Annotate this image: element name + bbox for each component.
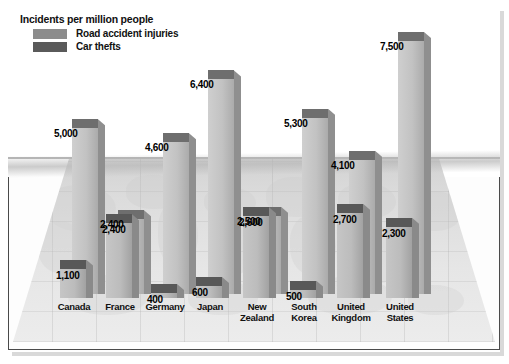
value-label-theft: 2,400 — [102, 224, 126, 235]
frame-shadow-bottom — [12, 352, 504, 356]
bar-side-face — [412, 218, 419, 298]
bar-top-face — [151, 284, 177, 293]
bar-side-face — [281, 207, 288, 294]
legend-item-theft: Car thefts — [20, 41, 178, 52]
value-label-road: 7,500 — [380, 41, 404, 52]
value-label-theft: 2,300 — [382, 228, 406, 239]
value-label-theft: 600 — [192, 287, 208, 298]
bar-top-face — [386, 218, 412, 227]
bar-side-face — [363, 204, 370, 298]
bar-top-face — [163, 133, 189, 142]
bar-side-face — [189, 133, 196, 294]
bar-road-accident-injuries — [208, 70, 234, 294]
bar-side-face — [98, 119, 105, 294]
legend: Incidents per million people Road accide… — [20, 13, 178, 52]
bar-side-face — [234, 70, 241, 294]
bar-top-face — [60, 260, 86, 269]
bar-top-face — [398, 32, 424, 41]
bar-front-face — [163, 133, 189, 294]
bar-front-face — [208, 70, 234, 294]
legend-swatch-theft — [33, 42, 67, 52]
bar-top-face — [208, 70, 234, 79]
value-label-road: 4,600 — [145, 142, 169, 153]
chart-container: 5,0001,1002,4002,4004,6004006,4006002,50… — [0, 0, 509, 364]
value-label-road: 5,300 — [284, 118, 308, 129]
bar-top-face — [72, 119, 98, 128]
plot-stage: 5,0001,1002,4002,4004,6004006,4006002,50… — [8, 7, 500, 350]
value-label-theft: 400 — [147, 294, 163, 305]
bar-side-face — [424, 32, 431, 294]
bar-side-face — [375, 151, 382, 294]
legend-label-theft: Car thefts — [76, 41, 121, 52]
legend-item-road: Road accident injuries — [20, 28, 178, 39]
value-label-road: 4,100 — [331, 160, 355, 171]
legend-title: Incidents per million people — [20, 13, 178, 25]
value-label-theft: 2,600 — [239, 217, 263, 228]
frame-shadow-right — [500, 11, 504, 356]
bar-road-accident-injuries — [163, 133, 189, 294]
bar-side-face — [86, 260, 93, 298]
bar-side-face — [144, 210, 151, 294]
bar-top-face — [290, 281, 316, 290]
bar-top-face — [196, 277, 222, 286]
category-label: UnitedKingdom — [325, 301, 377, 323]
value-label-theft: 1,100 — [56, 270, 80, 281]
category-label: Canada — [48, 301, 100, 312]
value-label-theft: 2,700 — [333, 214, 357, 225]
value-label-road: 5,000 — [54, 128, 78, 139]
bar-top-face — [337, 204, 363, 213]
value-label-road: 6,400 — [190, 79, 214, 90]
bar-road-accident-injuries — [302, 109, 328, 294]
value-label-theft: 500 — [286, 291, 302, 302]
category-label: NewZealand — [231, 301, 283, 323]
legend-swatch-road — [33, 29, 67, 39]
bar-side-face — [328, 109, 335, 294]
category-label: SouthKorea — [278, 301, 330, 323]
bar-front-face — [302, 109, 328, 294]
bar-side-face — [132, 214, 139, 298]
bar-top-face — [302, 109, 328, 118]
bar-side-face — [269, 207, 276, 298]
bar-top-face — [349, 151, 375, 160]
legend-label-road: Road accident injuries — [76, 28, 178, 39]
category-label: Japan — [184, 301, 236, 312]
category-label: UnitedStates — [374, 301, 426, 323]
